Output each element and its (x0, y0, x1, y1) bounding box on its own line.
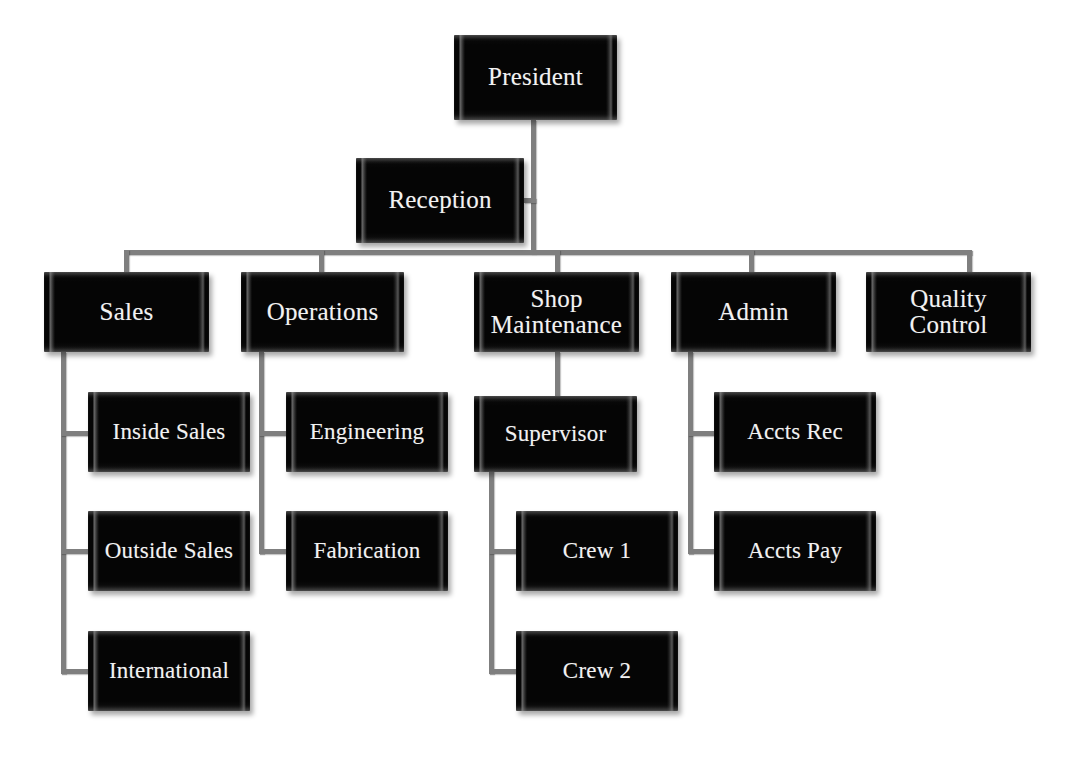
connector-sales-stub-outside (61, 549, 90, 554)
connector-admin-stub-accts-rec (688, 431, 717, 436)
node-accts-rec-label: Accts Rec (741, 420, 849, 444)
connector-shop-to-supervisor (555, 352, 560, 397)
node-quality-control-label: Quality Control (904, 286, 994, 339)
node-crew-2[interactable]: Crew 2 (516, 631, 678, 711)
node-reception-label: Reception (382, 187, 497, 214)
node-engineering-label: Engineering (304, 420, 431, 444)
node-crew-1-label: Crew 1 (557, 539, 637, 563)
node-sales[interactable]: Sales (44, 272, 209, 352)
node-outside-sales-label: Outside Sales (99, 539, 239, 563)
node-shop-maintenance[interactable]: Shop Maintenance (474, 272, 639, 352)
node-inside-sales-label: Inside Sales (107, 420, 232, 444)
connector-drop-shop-maintenance (555, 250, 560, 274)
node-reception[interactable]: Reception (356, 158, 524, 243)
node-accts-pay[interactable]: Accts Pay (714, 511, 876, 591)
connector-admin-stub-accts-pay (688, 549, 717, 554)
connector-operations-stub-fabrication (259, 549, 288, 554)
node-crew-1[interactable]: Crew 1 (516, 511, 678, 591)
node-crew-2-label: Crew 2 (557, 659, 637, 683)
connector-sales-stub-inside (61, 431, 90, 436)
node-president-label: President (482, 64, 589, 91)
node-international-label: International (103, 659, 235, 683)
connector-operations-spine (259, 352, 264, 554)
node-supervisor-label: Supervisor (499, 422, 613, 446)
node-international[interactable]: International (88, 631, 250, 711)
node-accts-pay-label: Accts Pay (742, 539, 848, 563)
node-fabrication-label: Fabrication (308, 539, 427, 563)
node-outside-sales[interactable]: Outside Sales (88, 511, 250, 591)
connector-reception-stub (524, 198, 536, 203)
connector-level2-bus (124, 250, 972, 255)
node-inside-sales[interactable]: Inside Sales (88, 392, 250, 472)
connector-admin-spine (688, 352, 693, 554)
connector-drop-sales (124, 250, 129, 274)
node-sales-label: Sales (94, 299, 160, 326)
node-fabrication[interactable]: Fabrication (286, 511, 448, 591)
connector-supervisor-spine (489, 470, 494, 674)
connector-supervisor-stub-crew2 (489, 669, 518, 674)
node-operations-label: Operations (261, 299, 385, 326)
connector-drop-admin (749, 250, 754, 274)
connector-sales-spine (61, 352, 66, 674)
node-supervisor[interactable]: Supervisor (474, 396, 637, 472)
node-admin[interactable]: Admin (671, 272, 836, 352)
connector-operations-stub-engineering (259, 431, 288, 436)
node-admin-label: Admin (712, 299, 794, 326)
node-shop-maintenance-label: Shop Maintenance (485, 286, 628, 339)
node-president[interactable]: President (454, 35, 617, 120)
connector-sales-stub-international (61, 669, 90, 674)
node-operations[interactable]: Operations (241, 272, 404, 352)
connector-supervisor-stub-crew1 (489, 549, 518, 554)
org-chart: President Reception Sales Operations Sho… (0, 0, 1082, 760)
connector-drop-quality-control (967, 250, 972, 274)
connector-drop-operations (319, 250, 324, 274)
node-quality-control[interactable]: Quality Control (866, 272, 1031, 352)
connector-president-stem (531, 120, 536, 254)
node-accts-rec[interactable]: Accts Rec (714, 392, 876, 472)
node-engineering[interactable]: Engineering (286, 392, 448, 472)
